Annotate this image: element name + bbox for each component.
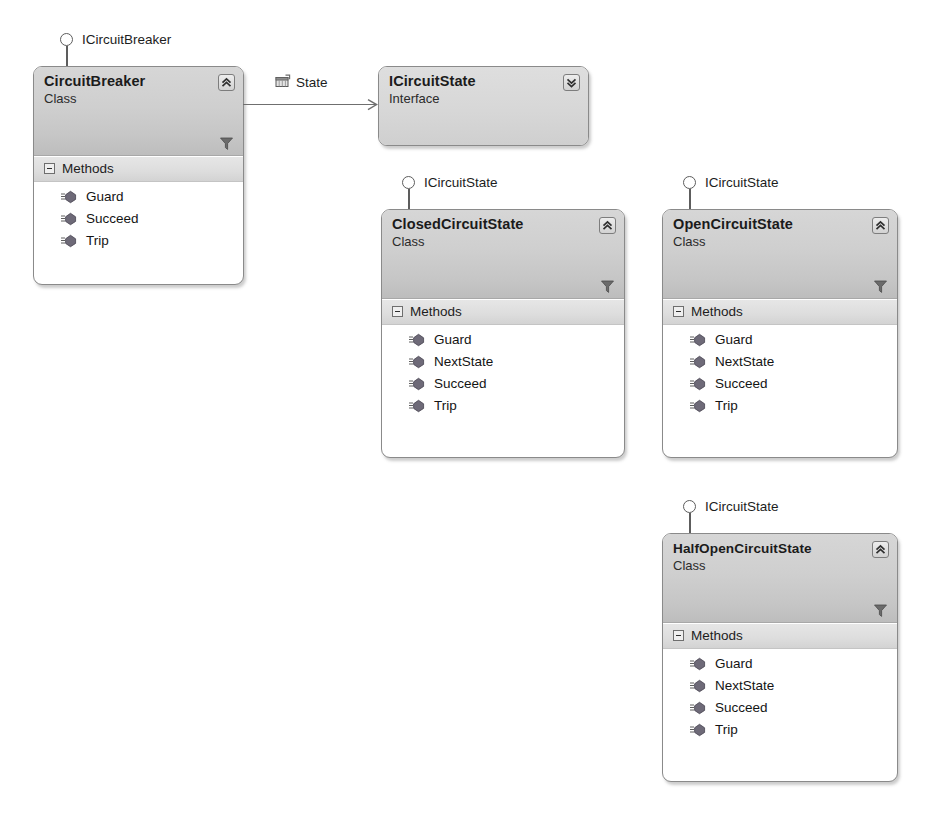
funnel-icon[interactable] — [873, 603, 888, 618]
member-name: Succeed — [434, 376, 487, 391]
method-icon — [61, 190, 77, 204]
member-row[interactable]: Trip — [34, 230, 243, 252]
member-row[interactable]: Succeed — [663, 373, 897, 395]
method-icon — [690, 377, 706, 391]
member-row[interactable]: Guard — [382, 329, 624, 351]
chevron-double-up-icon[interactable] — [218, 74, 235, 91]
funnel-icon[interactable] — [219, 136, 234, 151]
method-icon — [61, 212, 77, 226]
chevron-double-up-icon[interactable] — [599, 217, 616, 234]
member-row[interactable]: Guard — [663, 653, 897, 675]
chevron-double-up-icon[interactable] — [872, 217, 889, 234]
compartment-header-methods[interactable]: Methods — [382, 299, 624, 325]
compartment-header-methods[interactable]: Methods — [663, 299, 897, 325]
compartment-header-methods[interactable]: Methods — [663, 623, 897, 649]
member-row[interactable]: Trip — [663, 719, 897, 741]
interface-lollipop-icon — [402, 176, 415, 189]
member-name: Guard — [86, 189, 124, 204]
compartment-header-methods[interactable]: Methods — [34, 156, 243, 182]
class-diagram-canvas: ICircuitBreaker CircuitBreaker Class Me — [0, 0, 938, 820]
lollipop-label: ICircuitState — [705, 174, 779, 191]
member-row[interactable]: NextState — [663, 675, 897, 697]
class-shape-closedcircuitstate[interactable]: ClosedCircuitState Class Methods — [381, 209, 625, 458]
shape-body: ICircuitState Interface — [378, 66, 589, 146]
member-name: NextState — [715, 678, 774, 693]
shape-body: HalfOpenCircuitState Class Methods — [662, 533, 898, 782]
interface-stereotype: Interface — [389, 91, 580, 107]
member-row[interactable]: NextState — [663, 351, 897, 373]
member-name: Trip — [434, 398, 457, 413]
method-icon — [690, 657, 706, 671]
interface-lollipop-icon — [683, 500, 696, 513]
collapse-minus-icon[interactable] — [673, 306, 684, 317]
member-list: Guard Succeed Trip — [34, 182, 243, 258]
shape-header: CircuitBreaker Class — [34, 67, 243, 156]
shape-header: ClosedCircuitState Class — [382, 210, 624, 299]
chevron-double-up-icon[interactable] — [872, 541, 889, 558]
chevron-double-down-icon[interactable] — [563, 74, 580, 91]
method-icon — [690, 701, 706, 715]
method-icon — [409, 355, 425, 369]
member-name: Guard — [434, 332, 472, 347]
member-name: Guard — [715, 656, 753, 671]
shape-header: OpenCircuitState Class — [663, 210, 897, 299]
member-row[interactable]: Trip — [382, 395, 624, 417]
open-arrow-icon — [366, 99, 378, 111]
member-list: Guard NextState Succeed — [382, 325, 624, 423]
collapse-minus-icon[interactable] — [44, 163, 55, 174]
member-name: NextState — [434, 354, 493, 369]
member-row[interactable]: Guard — [663, 329, 897, 351]
member-name: Succeed — [715, 700, 768, 715]
member-name: Succeed — [715, 376, 768, 391]
method-icon — [690, 723, 706, 737]
method-icon — [61, 234, 77, 248]
class-stereotype: Class — [392, 234, 616, 250]
member-row[interactable]: Guard — [34, 186, 243, 208]
lollipop-label: ICircuitState — [705, 498, 779, 515]
method-icon — [409, 377, 425, 391]
compartment-label: Methods — [691, 627, 743, 645]
lollipop-label: ICircuitState — [424, 174, 498, 191]
member-row[interactable]: Succeed — [663, 697, 897, 719]
interface-shape-icircuitstate[interactable]: ICircuitState Interface — [378, 66, 589, 146]
association-label-state[interactable]: State — [296, 75, 328, 91]
class-shape-opencircuitstate[interactable]: OpenCircuitState Class Methods — [662, 209, 898, 458]
shape-body: ClosedCircuitState Class Methods — [381, 209, 625, 458]
class-name: HalfOpenCircuitState — [673, 540, 889, 557]
member-name: Trip — [715, 722, 738, 737]
member-row[interactable]: Succeed — [382, 373, 624, 395]
association-line-state[interactable] — [243, 104, 377, 105]
class-name: ClosedCircuitState — [392, 216, 616, 233]
method-icon — [690, 399, 706, 413]
class-stereotype: Class — [673, 558, 889, 574]
class-shape-circuitbreaker[interactable]: CircuitBreaker Class Methods — [33, 66, 244, 285]
member-name: Succeed — [86, 211, 139, 226]
class-shape-halfopencircuitstate[interactable]: HalfOpenCircuitState Class Methods — [662, 533, 898, 782]
class-name: OpenCircuitState — [673, 216, 889, 233]
compartment-label: Methods — [62, 160, 114, 178]
class-stereotype: Class — [44, 91, 235, 107]
member-name: Trip — [86, 233, 109, 248]
member-name: Trip — [715, 398, 738, 413]
class-stereotype: Class — [673, 234, 889, 250]
member-row[interactable]: Trip — [663, 395, 897, 417]
class-name: CircuitBreaker — [44, 73, 235, 90]
method-icon — [409, 333, 425, 347]
property-icon — [275, 74, 291, 89]
collapse-minus-icon[interactable] — [392, 306, 403, 317]
compartment-label: Methods — [410, 303, 462, 321]
member-row[interactable]: NextState — [382, 351, 624, 373]
funnel-icon[interactable] — [600, 279, 615, 294]
method-icon — [690, 679, 706, 693]
compartment-label: Methods — [691, 303, 743, 321]
interface-name: ICircuitState — [389, 73, 580, 90]
shape-body: OpenCircuitState Class Methods — [662, 209, 898, 458]
shape-header: HalfOpenCircuitState Class — [663, 534, 897, 623]
member-name: Guard — [715, 332, 753, 347]
method-icon — [409, 399, 425, 413]
funnel-icon[interactable] — [873, 279, 888, 294]
member-row[interactable]: Succeed — [34, 208, 243, 230]
collapse-minus-icon[interactable] — [673, 630, 684, 641]
shape-header: ICircuitState Interface — [379, 67, 588, 146]
method-icon — [690, 333, 706, 347]
